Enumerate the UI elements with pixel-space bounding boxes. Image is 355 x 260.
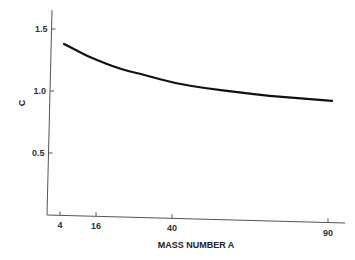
x-axis-title: MASS NUMBER A — [158, 240, 235, 250]
x-tick-label: 90 — [323, 228, 333, 238]
y-tick-label: 1.5 — [35, 24, 48, 34]
y-axis-title: C — [17, 99, 27, 106]
y-ticks: 0.51.01.5 — [32, 24, 56, 158]
y-tick-label: 1.0 — [34, 86, 47, 96]
x-tick-label: 40 — [167, 223, 177, 233]
x-ticks: 4164090 — [57, 211, 333, 237]
x-tick-label: 4 — [57, 220, 62, 230]
y-axis — [47, 10, 52, 215]
y-tick-label: 0.5 — [32, 148, 45, 158]
chart: 0.51.01.5 4164090 C MASS NUMBER A — [0, 0, 355, 260]
x-tick-label: 16 — [91, 221, 101, 231]
data-curve — [64, 44, 332, 101]
